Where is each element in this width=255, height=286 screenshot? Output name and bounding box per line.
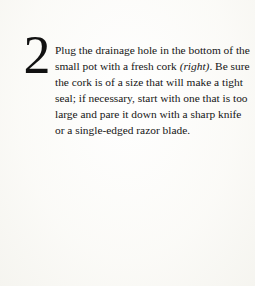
document-page: 2 Plug the drainage hole in the bottom o… bbox=[0, 0, 255, 286]
step-number-drop-cap: 2 bbox=[18, 28, 56, 82]
step-text-italic-reference: (right) bbox=[180, 60, 210, 72]
step-instruction-text: Plug the drainage hole in the bottom of … bbox=[55, 43, 251, 138]
